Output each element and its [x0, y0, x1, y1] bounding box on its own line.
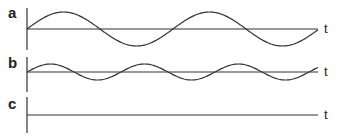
panel-b-label: b — [8, 55, 17, 70]
panel-a-label: a — [8, 5, 16, 20]
panel-c-label: c — [8, 96, 16, 111]
panel-a-time-label: t — [324, 22, 328, 35]
panel-b-time-label: t — [324, 65, 328, 78]
wave-diagram — [0, 0, 345, 138]
panel-c-time-label: t — [324, 108, 328, 121]
